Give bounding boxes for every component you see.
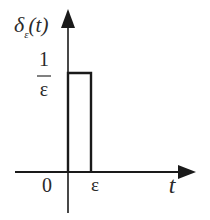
x-axis-arrow-icon [178, 165, 196, 179]
y-axis-arrow-icon [61, 9, 75, 28]
height-label-numerator: 1 [39, 48, 49, 70]
y-axis-label: δε(t) [14, 12, 48, 40]
epsilon-label: ε [91, 174, 99, 195]
impulse-pulse-diagram: δε(t) 1 ε 0 ε t [0, 0, 210, 220]
origin-label: 0 [42, 174, 52, 196]
pulse-waveform [68, 73, 91, 172]
x-axis-label: t [169, 172, 177, 198]
height-label-denominator: ε [40, 78, 48, 100]
